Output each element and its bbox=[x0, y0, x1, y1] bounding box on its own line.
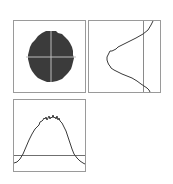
beam-profile-figure bbox=[0, 0, 173, 184]
vertical-profile-panel bbox=[89, 21, 161, 93]
beam-image-panel bbox=[14, 21, 86, 93]
panel-frame bbox=[14, 100, 86, 172]
panel-frame bbox=[89, 21, 161, 93]
horizontal-profile-panel bbox=[14, 100, 86, 172]
